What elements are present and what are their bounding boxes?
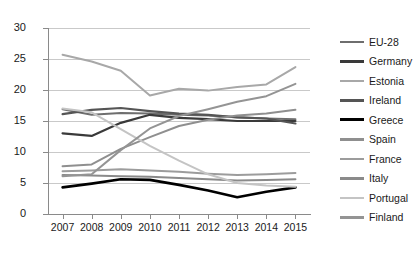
legend-label: Portugal bbox=[369, 193, 408, 204]
legend-item-eu-28[interactable]: EU-28 bbox=[340, 32, 420, 52]
series-container bbox=[48, 28, 310, 214]
legend-label: Germany bbox=[369, 56, 412, 67]
legend-swatch-icon bbox=[340, 99, 364, 102]
legend-swatch-icon bbox=[340, 60, 364, 63]
series-line-estonia bbox=[63, 55, 296, 96]
legend-swatch-icon bbox=[340, 177, 364, 180]
legend-swatch-icon bbox=[340, 197, 364, 200]
legend-item-finland[interactable]: Finland bbox=[340, 208, 420, 228]
legend-item-spain[interactable]: Spain bbox=[340, 130, 420, 150]
legend-label: Spain bbox=[369, 134, 396, 145]
legend-swatch-icon bbox=[340, 118, 364, 121]
legend-swatch-icon bbox=[340, 41, 364, 44]
legend-item-france[interactable]: France bbox=[340, 149, 420, 169]
legend-swatch-icon bbox=[340, 216, 364, 219]
plot-area: 051015202530 200720082009201020112012201… bbox=[0, 0, 340, 263]
series-line-greece bbox=[63, 179, 296, 197]
legend-item-germany[interactable]: Germany bbox=[340, 52, 420, 72]
legend-item-portugal[interactable]: Portugal bbox=[340, 188, 420, 208]
legend-label: Finland bbox=[369, 212, 403, 223]
legend-swatch-icon bbox=[340, 158, 364, 161]
series-line-italy bbox=[63, 175, 296, 181]
legend-swatch-icon bbox=[340, 138, 364, 141]
legend-label: Italy bbox=[369, 173, 388, 184]
legend-item-estonia[interactable]: Estonia bbox=[340, 71, 420, 91]
legend-item-ireland[interactable]: Ireland bbox=[340, 91, 420, 111]
legend: EU-28GermanyEstoniaIrelandGreeceSpainFra… bbox=[340, 32, 420, 227]
legend-label: Ireland bbox=[369, 95, 401, 106]
line-chart: 051015202530 200720082009201020112012201… bbox=[0, 0, 420, 263]
legend-item-italy[interactable]: Italy bbox=[340, 169, 420, 189]
legend-label: EU-28 bbox=[369, 37, 399, 48]
legend-label: Greece bbox=[369, 115, 403, 126]
legend-swatch-icon bbox=[340, 80, 364, 83]
legend-item-greece[interactable]: Greece bbox=[340, 110, 420, 130]
legend-label: Estonia bbox=[369, 76, 404, 87]
legend-label: France bbox=[369, 154, 402, 165]
